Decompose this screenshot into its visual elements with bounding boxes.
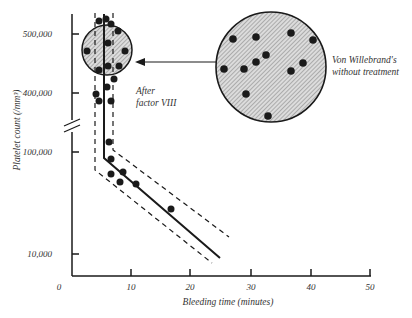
x-tick-40: 40	[307, 282, 317, 292]
x-tick-50: 50	[366, 282, 376, 292]
after-factor-viii-label-line2: factor VIII	[136, 98, 177, 108]
x-axis	[72, 269, 371, 276]
von-willebrand-label-line2: without treatment	[332, 67, 399, 77]
arrow-to-small-circle	[135, 58, 225, 66]
von-willebrand-circle	[216, 12, 326, 122]
after-factor-viii-label-line1: After	[135, 86, 155, 96]
von-willebrand-label-line1: Von Willebrand's	[332, 55, 397, 65]
x-axis-title: Bleeding time (minutes)	[183, 297, 274, 308]
chart-canvas: 500,000 400,000 100,000 10,000 0 10 20 3…	[0, 0, 412, 318]
x-tick-30: 30	[246, 282, 257, 292]
x-tick-20: 20	[186, 282, 196, 292]
y-axis-title: Platelet count (/mm³)	[12, 90, 23, 172]
x-tick-0: 0	[57, 282, 62, 292]
y-axis	[62, 14, 80, 276]
y-tick-100000: 100,000	[23, 147, 53, 157]
x-tick-10: 10	[127, 282, 137, 292]
y-tick-10000: 10,000	[27, 249, 52, 259]
y-tick-500000: 500,000	[23, 29, 53, 39]
y-tick-400000: 400,000	[23, 88, 53, 98]
